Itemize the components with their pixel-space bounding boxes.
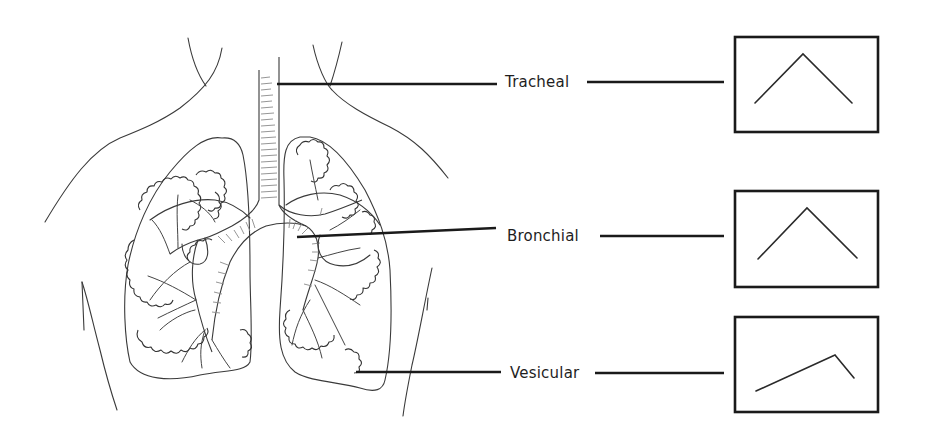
tracheal-label: Tracheal — [505, 73, 569, 91]
left-lung-alveoli — [284, 140, 381, 374]
lung-breath-sounds-diagram — [0, 0, 925, 440]
torso-outline — [45, 38, 448, 416]
tracheal-waveform-box — [735, 37, 878, 132]
vesicular-label: Vesicular — [510, 364, 579, 382]
bronchial-pointer-line — [297, 228, 496, 237]
vesicular-waveform-box — [735, 317, 878, 412]
bronchi — [170, 200, 362, 352]
trachea — [232, 57, 306, 226]
right-lung-alveoli — [125, 170, 251, 368]
bronchial-label: Bronchial — [507, 227, 579, 245]
bronchial-waveform-box — [735, 191, 878, 287]
